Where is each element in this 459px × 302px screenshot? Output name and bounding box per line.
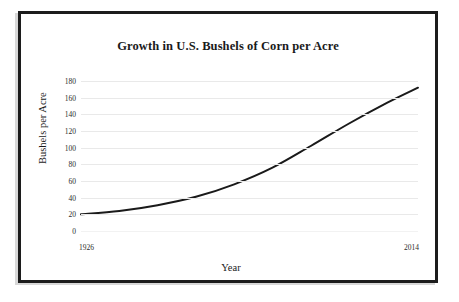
chart-frame: Growth in U.S. Bushels of Corn per Acre … (18, 11, 438, 283)
plot-area: 020406080100120140160180 (81, 81, 418, 231)
gridline (81, 198, 418, 199)
y-tick-label: 60 (69, 177, 77, 186)
gridline (81, 114, 418, 115)
y-tick-label: 180 (65, 77, 76, 86)
chart-figure: Growth in U.S. Bushels of Corn per Acre … (0, 0, 459, 302)
y-tick-label: 0 (72, 227, 76, 236)
gridline (81, 98, 418, 99)
gridline (81, 148, 418, 149)
y-tick-label: 120 (65, 127, 76, 136)
y-tick-label: 140 (65, 110, 76, 119)
y-tick-label: 40 (69, 193, 77, 202)
gridline (81, 81, 418, 82)
gridline (81, 131, 418, 132)
y-tick-label: 20 (69, 210, 77, 219)
yield-curve (81, 81, 418, 231)
y-tick-label: 80 (69, 160, 77, 169)
x-axis-label: Year (21, 262, 441, 273)
y-tick-label: 160 (65, 93, 76, 102)
y-tick-label: 100 (65, 143, 76, 152)
plot-wrapper: Bushels per Acre 02040608010012014016018… (21, 14, 441, 286)
gridline (81, 231, 418, 232)
gridline (81, 181, 418, 182)
x-tick-label-start: 1926 (79, 243, 94, 252)
y-axis-label: Bushels per Acre (37, 92, 48, 164)
gridline (81, 164, 418, 165)
x-tick-label-end: 2014 (404, 243, 419, 252)
gridline (81, 214, 418, 215)
